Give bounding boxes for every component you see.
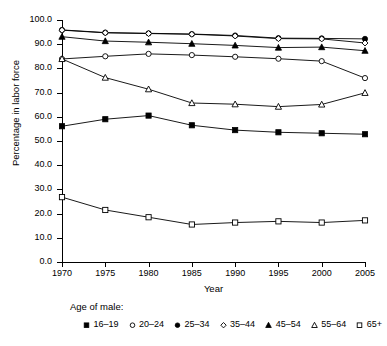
legend-item-65+[interactable]: 65+ — [355, 319, 382, 329]
legend-item-25-34[interactable]: 25–34 — [173, 319, 210, 329]
filled-triangle-icon — [264, 320, 273, 329]
legend-label: 55–64 — [321, 319, 346, 329]
legend-label: 65+ — [367, 319, 382, 329]
legend-item-45-54[interactable]: 45–54 — [264, 319, 301, 329]
legend-label: 20–24 — [139, 319, 164, 329]
legend-item-16-19[interactable]: 16–19 — [82, 319, 119, 329]
filled-circle-icon — [173, 320, 182, 329]
filled-square-icon — [82, 320, 91, 329]
legend-label: 35–44 — [230, 319, 255, 329]
legend-items: 16–1920–2425–3435–4445–5455–6465+ — [70, 319, 375, 329]
legend-title: Age of male: — [70, 301, 375, 312]
open-triangle-icon — [310, 320, 319, 329]
legend-item-55-64[interactable]: 55–64 — [310, 319, 347, 329]
legend-label: 45–54 — [276, 319, 301, 329]
open-circle-icon — [128, 320, 137, 329]
legend-item-20-24[interactable]: 20–24 — [128, 319, 165, 329]
legend-label: 25–34 — [185, 319, 210, 329]
series-65+ — [59, 195, 367, 228]
open-square-icon — [355, 320, 364, 329]
series-16-19 — [59, 113, 367, 137]
legend: Age of male: 16–1920–2425–3435–4445–5455… — [70, 301, 375, 329]
legend-label: 16–19 — [94, 319, 119, 329]
legend-item-35-44[interactable]: 35–44 — [219, 319, 256, 329]
open-diamond-icon — [219, 320, 228, 329]
